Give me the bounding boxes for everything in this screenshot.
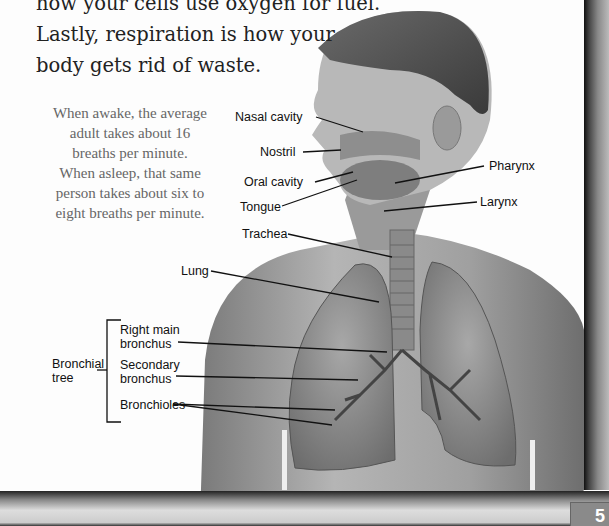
- label-trachea: Trachea: [242, 227, 287, 241]
- label-right-main-bronchus-line1: Right main: [120, 323, 180, 337]
- fact-line: person takes about six to: [10, 183, 250, 203]
- body-line: body gets rid of waste.: [36, 50, 380, 81]
- label-bronchial-tree: Bronchial tree: [52, 357, 104, 385]
- breathing-fact-box: When awake, the average adult takes abou…: [10, 103, 250, 223]
- body-line: how your cells use oxygen for fuel.: [36, 0, 380, 19]
- label-bronchial-tree-line2: tree: [52, 371, 74, 385]
- fact-line: adult takes about 16: [10, 123, 250, 143]
- label-oral-cavity: Oral cavity: [244, 175, 303, 189]
- label-nasal-cavity: Nasal cavity: [235, 110, 302, 124]
- book-page: how your cells use oxygen for fuel. Last…: [0, 0, 609, 526]
- label-tongue: Tongue: [240, 200, 281, 214]
- label-right-main-bronchus-line2: bronchus: [120, 337, 171, 351]
- label-bronchioles: Bronchioles: [120, 398, 185, 412]
- body-line: Lastly, respiration is how your: [36, 19, 380, 50]
- bottom-page-band: [0, 491, 609, 526]
- label-bronchial-tree-line1: Bronchial: [52, 357, 104, 371]
- label-larynx: Larynx: [480, 195, 518, 209]
- label-secondary-bronchus-line2: bronchus: [120, 372, 171, 386]
- label-right-main-bronchus: Right main bronchus: [120, 323, 180, 351]
- fact-line: When asleep, that same: [10, 163, 250, 183]
- label-lung: Lung: [181, 264, 209, 278]
- fact-line: When awake, the average: [10, 103, 250, 123]
- body-paragraph: how your cells use oxygen for fuel. Last…: [36, 0, 380, 81]
- page-edge-shadow: [584, 0, 609, 490]
- fact-line: eight breaths per minute.: [10, 203, 250, 223]
- fact-line: breaths per minute.: [10, 143, 250, 163]
- label-secondary-bronchus: Secondary bronchus: [120, 358, 180, 386]
- label-nostril: Nostril: [260, 145, 295, 159]
- page-number: 5: [570, 502, 609, 526]
- label-secondary-bronchus-line1: Secondary: [120, 358, 180, 372]
- label-pharynx: Pharynx: [489, 159, 535, 173]
